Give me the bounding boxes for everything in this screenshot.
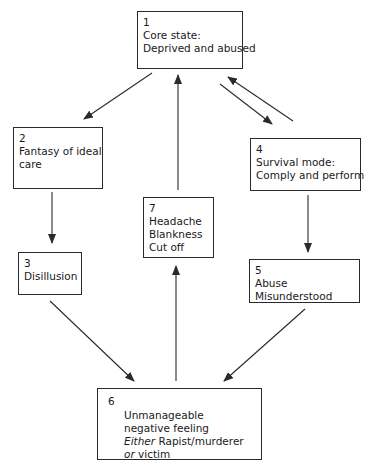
node-label-line: Abuse — [255, 277, 354, 290]
node-number: 7 — [149, 202, 208, 215]
node-label-line: Core state: — [143, 29, 237, 42]
node-label-line: Deprived and abused — [143, 42, 237, 55]
arrow-4-to-1 — [228, 77, 293, 121]
node-label-line-or: or victim — [124, 448, 251, 461]
arrow-3-to-6 — [50, 301, 134, 381]
node-survival-mode: 4 Survival mode: Comply and perform — [250, 138, 361, 191]
node-label-line: Headache — [149, 215, 208, 228]
node-label-line: Cut off — [149, 241, 208, 254]
node-label-line: negative feeling — [124, 422, 251, 435]
node-label-line: Misunderstood — [255, 290, 354, 303]
node-number: 4 — [256, 143, 355, 156]
or-rest: victim — [135, 448, 171, 460]
arrow-1-to-2 — [84, 73, 152, 119]
node-label-line: Fantasy of ideal — [19, 145, 97, 158]
node-label-line: Unmanageable — [124, 409, 251, 422]
arrow-5-to-6 — [224, 309, 305, 381]
node-label-line: care — [19, 158, 97, 171]
either-rest: Rapist/murderer — [155, 435, 244, 447]
node-number: 3 — [24, 257, 76, 270]
node-label-line: Disillusion — [24, 270, 76, 283]
node-label-line-either: Either Rapist/murderer — [124, 435, 251, 448]
either-word: Either — [124, 435, 155, 447]
arrow-1-to-4 — [220, 84, 272, 124]
node-disillusion: 3 Disillusion — [18, 252, 82, 295]
node-number: 2 — [19, 132, 97, 145]
node-number: 5 — [255, 264, 354, 277]
node-number: 6 — [108, 395, 251, 408]
node-unmanageable-negative-feeling: 6 Unmanageable negative feeling Either R… — [97, 388, 262, 460]
node-number: 1 — [143, 16, 237, 29]
node-label-line: Blankness — [149, 228, 208, 241]
node-headache-blankness: 7 Headache Blankness Cut off — [143, 197, 214, 258]
or-word: or — [124, 448, 135, 460]
node-label-line: Survival mode: — [256, 156, 355, 169]
node-core-state: 1 Core state: Deprived and abused — [137, 11, 243, 69]
node-abuse-misunderstood: 5 Abuse Misunderstood — [249, 259, 360, 303]
node-label-line: Comply and perform — [256, 169, 355, 182]
node-fantasy-of-ideal-care: 2 Fantasy of ideal care — [13, 127, 103, 189]
